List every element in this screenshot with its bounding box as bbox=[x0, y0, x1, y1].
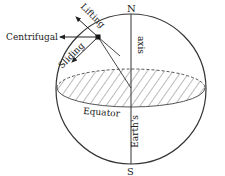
north-label: N bbox=[127, 3, 136, 14]
lifting-label: Lifting bbox=[79, 1, 108, 30]
sliding-label: Sliding bbox=[56, 40, 86, 70]
equator-label: Equator bbox=[83, 106, 121, 119]
south-label: S bbox=[127, 166, 134, 176]
centrifugal-label: Centrifugal bbox=[6, 32, 58, 42]
earths-label: Earth's bbox=[130, 115, 140, 148]
normal-extension-line bbox=[98, 37, 120, 56]
axis-label: axis bbox=[136, 36, 146, 54]
earth-force-diagram: N S axis Earth's Equator Centrifugal Lif… bbox=[0, 0, 225, 176]
